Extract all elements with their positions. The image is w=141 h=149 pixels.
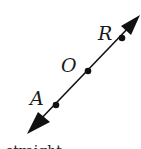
line-ray xyxy=(36,24,132,124)
point-A xyxy=(53,102,60,109)
label-O: O xyxy=(61,54,77,76)
line-diagram: R O A straight xyxy=(0,0,141,149)
label-A: A xyxy=(28,87,44,109)
cut-off-caption: straight xyxy=(6,143,62,149)
label-R: R xyxy=(97,22,112,44)
point-R xyxy=(119,35,126,42)
arrowhead-start-icon xyxy=(27,112,50,134)
point-O xyxy=(85,68,92,75)
